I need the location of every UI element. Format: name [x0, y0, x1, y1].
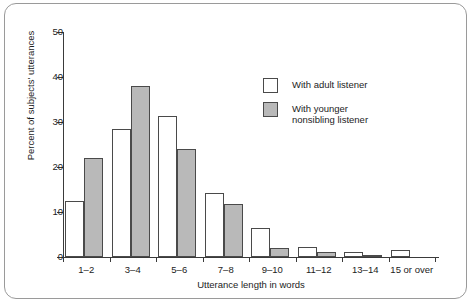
bar-younger-nonsibling-listener: [363, 255, 382, 257]
x-axis-category-label: 5–6: [156, 264, 203, 275]
gray-square-swatch: [263, 102, 278, 117]
bar-adult-listener: [344, 252, 363, 257]
bar-group: [203, 32, 250, 257]
x-axis-category-label: 1–2: [63, 264, 110, 275]
bar-group: [389, 32, 436, 257]
bar-adult-listener: [158, 116, 177, 257]
chart-legend: With adult listener With younger nonsibl…: [263, 78, 433, 134]
x-axis-tick: [156, 257, 157, 262]
y-axis-tick-label: 40: [17, 71, 63, 82]
bar-younger-nonsibling-listener: [224, 204, 243, 257]
bar-group: [110, 32, 157, 257]
y-axis-tick-label: 20: [17, 161, 63, 172]
legend-item-younger: With younger nonsibling listener: [263, 102, 433, 125]
bar-younger-nonsibling-listener: [177, 149, 196, 257]
x-axis-tick: [435, 257, 436, 262]
x-axis-tick: [296, 257, 297, 262]
x-axis-tick: [249, 257, 250, 262]
legend-item-adult: With adult listener: [263, 78, 433, 93]
bar-younger-nonsibling-listener: [270, 248, 289, 257]
y-axis-tick-label: 30: [17, 116, 63, 127]
x-axis-tick: [342, 257, 343, 262]
bar-adult-listener: [65, 201, 84, 257]
legend-label-younger: With younger nonsibling listener: [292, 102, 368, 125]
x-axis-label: Utterance length in words: [63, 279, 439, 290]
figure-frame: Percent of subjects' utterances 01020304…: [4, 3, 467, 299]
bar-adult-listener: [112, 129, 131, 257]
x-axis-tick: [63, 257, 64, 262]
bar-group: [296, 32, 343, 257]
white-square-swatch: [263, 78, 278, 93]
bar-younger-nonsibling-listener: [84, 158, 103, 257]
bar-adult-listener: [298, 247, 317, 257]
bar-younger-nonsibling-listener: [131, 86, 150, 257]
x-axis-category-label: 13–14: [342, 264, 389, 275]
bar-group: [156, 32, 203, 257]
x-axis-tick: [110, 257, 111, 262]
y-axis-tick-label: 10: [17, 206, 63, 217]
bar-adult-listener: [205, 193, 224, 257]
x-axis-category-label: 3–4: [110, 264, 157, 275]
bar-group: [342, 32, 389, 257]
x-axis-category-label: 11–12: [296, 264, 343, 275]
bar-group: [249, 32, 296, 257]
x-axis-category-label: 15 or over: [389, 264, 436, 275]
bar-adult-listener: [251, 228, 270, 257]
x-axis-category-label: 7–8: [203, 264, 250, 275]
y-axis-tick-label: 50: [17, 26, 63, 37]
figure-caption: [6, 301, 472, 308]
bar-group: [63, 32, 110, 257]
x-axis-line: [63, 257, 439, 258]
bar-adult-listener: [391, 250, 410, 257]
y-axis-tick-label: 0: [17, 251, 63, 262]
bar-younger-nonsibling-listener: [317, 252, 336, 257]
x-axis-tick: [389, 257, 390, 262]
x-axis-category-label: 9–10: [249, 264, 296, 275]
plot-area: [63, 32, 435, 257]
x-axis-tick: [203, 257, 204, 262]
legend-label-adult: With adult listener: [292, 78, 368, 90]
